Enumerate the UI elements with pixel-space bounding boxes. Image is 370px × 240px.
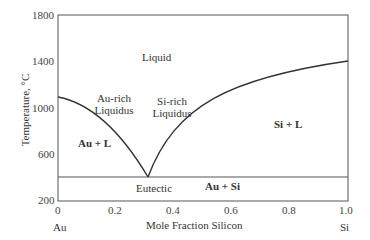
si-rich-line1: Si-rich [150,95,194,107]
au-rich-line1: Au-rich [93,92,135,104]
y-axis-label: Temperature, °C [19,65,31,155]
region-label-si-l: Si + L [274,118,302,130]
x-tick: 0.4 [166,204,180,216]
y-tick: 1800 [32,9,54,21]
si-rich-liquidus-curve [148,61,348,177]
region-label-liquid: Liquid [142,51,171,63]
region-label-si-rich: Si-rich Liquidus [150,95,194,119]
au-rich-line2: Liquidus [93,104,135,116]
x-axis-label: Mole Fraction Silicon [146,219,243,231]
x-tick: 0 [55,204,61,216]
region-label-au-rich: Au-rich Liquidus [93,92,135,116]
region-label-au-si: Au + Si [205,180,240,192]
region-label-eutectic: Eutectic [136,182,172,194]
si-rich-line2: Liquidus [150,107,194,119]
x-tick: 0.2 [108,204,122,216]
phase-diagram: 1800 1400 1000 600 200 0 0.2 0.4 0.6 0.8… [0,0,370,240]
x-tick: 0.6 [224,204,238,216]
y-tick: 1000 [32,102,54,114]
x-end-label-si: Si [340,221,349,233]
x-end-label-au: Au [53,221,66,233]
y-tick: 1400 [32,55,54,67]
x-tick: 1.0 [339,204,353,216]
x-tick: 0.8 [282,204,296,216]
y-tick: 200 [38,194,55,206]
y-tick: 600 [38,148,55,160]
region-label-au-l: Au + L [78,137,111,149]
